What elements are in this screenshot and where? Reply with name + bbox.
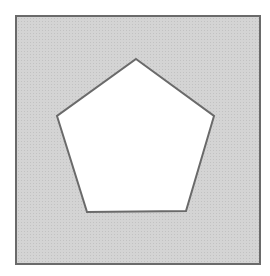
figure-canvas [0,0,270,276]
